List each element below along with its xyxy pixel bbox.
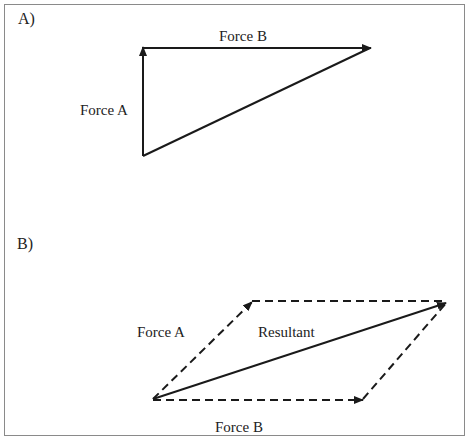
vector-diagram xyxy=(0,0,469,442)
panel-a-force-b-label: Force B xyxy=(219,29,267,44)
panel-b-force-a-arrow xyxy=(153,302,252,399)
panel-b-resultant-arrow xyxy=(153,303,446,399)
panel-a-label: A) xyxy=(18,11,35,27)
panel-a-vectors xyxy=(143,47,371,156)
panel-b-force-a-label: Force A xyxy=(137,325,185,340)
panel-b-resultant-label: Resultant xyxy=(258,325,315,340)
panel-b-force-b-label: Force B xyxy=(215,420,263,435)
panel-a-closing-side xyxy=(143,48,370,156)
panel-a-force-a-label: Force A xyxy=(80,103,128,118)
panel-b-label: B) xyxy=(17,236,33,252)
panel-b-vectors xyxy=(153,301,447,400)
